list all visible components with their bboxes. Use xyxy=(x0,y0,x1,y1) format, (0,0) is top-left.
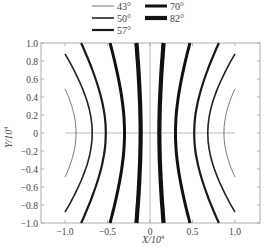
y-tick-label: 0.6 xyxy=(26,75,38,85)
y-tick-label: 0.8 xyxy=(26,57,38,67)
y-tick-label: 0 xyxy=(33,129,38,139)
legend-label-70: 70° xyxy=(170,1,184,12)
y-tick-label: −0.8 xyxy=(21,201,38,211)
x-tick-label: 0.5 xyxy=(187,227,199,237)
x-tick-label: 1.0 xyxy=(229,227,241,237)
y-axis-label: Y/104 xyxy=(3,127,14,148)
y-tick-label: 0.4 xyxy=(26,93,38,103)
y-tick-label: 0.2 xyxy=(26,111,38,121)
x-tick-label: −1.0 xyxy=(56,227,73,237)
y-tick-label: −0.6 xyxy=(21,183,38,193)
x-tick-label: −0.5 xyxy=(99,227,116,237)
legend-label-57: 57° xyxy=(117,25,131,36)
legend-label-43: 43° xyxy=(117,1,131,12)
y-tick-label: −0.2 xyxy=(21,147,38,157)
y-tick-label: −0.4 xyxy=(21,165,38,175)
chart-legend: 43°50°57°70°82° xyxy=(92,1,184,36)
x-axis-label: X/104 xyxy=(141,234,164,245)
contour-chart: 43°50°57°70°82° −1.0−0.500.51.01.00.80.6… xyxy=(0,0,267,252)
y-tick-label: −1.0 xyxy=(21,219,38,229)
reference-lines xyxy=(65,43,235,223)
legend-label-50: 50° xyxy=(117,13,131,24)
y-tick-label: 1.0 xyxy=(26,39,38,49)
legend-label-82: 82° xyxy=(170,13,184,24)
